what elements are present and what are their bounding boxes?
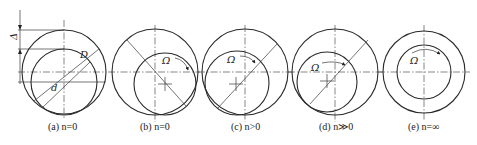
rotation-label: Ω [226,54,235,65]
journal-circle [205,51,269,115]
caption-d: (d) n≫0 [319,121,353,133]
caption-e: (e) n=∞ [408,121,439,133]
rotation-label: Ω [310,62,319,73]
inner-diameter-line [42,62,90,108]
panel-e: Ω (e) n=∞ [378,25,470,133]
arrow-icon [18,49,22,54]
rotation-arrow-icon [175,58,188,70]
journal-bearing-diagram: Δ D d (a) n=0 Ω (b) n=0 Ω (c) n>0 [0,0,477,145]
rotation-label: Ω [161,55,170,66]
inner-diameter-label: d [51,82,57,93]
panel-b: Ω (b) n=0 [108,25,200,133]
gap-label: Δ [8,33,19,41]
panel-c: Ω (c) n>0 [198,25,292,133]
rotation-label: Ω [409,55,418,66]
outer-diameter-line [34,49,99,101]
rotation-arrow-icon [412,49,440,54]
panel-a: Δ D d (a) n=0 [8,10,106,133]
caption-b: (b) n=0 [140,121,170,133]
rotation-arrow-icon [240,56,255,63]
panel-d: Ω (d) n≫0 [288,25,383,133]
caption-c: (c) n>0 [231,121,260,133]
outer-diameter-label: D [79,49,88,60]
rotation-arrow-icon [322,62,345,65]
arrow-icon [18,25,22,30]
caption-a: (a) n=0 [48,121,77,133]
